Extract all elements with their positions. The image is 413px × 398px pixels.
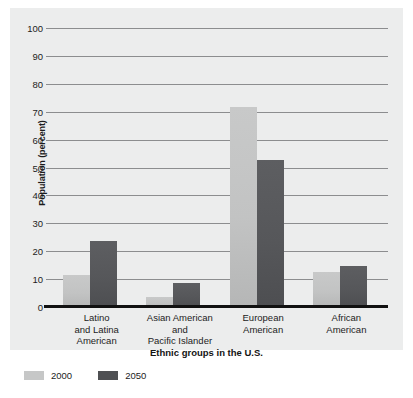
legend-swatch-2000-icon: [24, 371, 44, 380]
legend-item-2050: 2050: [98, 370, 146, 381]
x-axis-line: [44, 305, 388, 308]
y-tick-10: [46, 279, 55, 280]
y-tick-label-100: 100: [3, 23, 43, 34]
y-tick-30: [46, 223, 55, 224]
y-tick-label-0: 0: [3, 302, 43, 313]
y-tick-label-80: 80: [3, 79, 43, 90]
bar-2050-4: [340, 266, 367, 308]
y-tick-label-30: 30: [3, 218, 43, 229]
y-tick-100: [46, 28, 55, 29]
y-tick-60: [46, 140, 55, 141]
bar-2000-1: [63, 275, 90, 308]
y-tick-50: [46, 168, 55, 169]
bar-group-4: [305, 29, 388, 308]
plot-area: 0102030405060708090100: [55, 29, 388, 308]
legend-label-2000: 2000: [51, 370, 72, 381]
y-tick-label-10: 10: [3, 274, 43, 285]
x-category-label-line: Pacific Islander: [128, 335, 232, 347]
y-tick-90: [46, 56, 55, 57]
legend-label-2050: 2050: [125, 370, 146, 381]
bar-2000-3: [230, 107, 257, 308]
chart-legend: 2000 2050: [24, 370, 146, 381]
y-tick-label-70: 70: [3, 107, 43, 118]
chart-figure: Population (percent) 0102030405060708090…: [0, 0, 413, 398]
chart-panel: Population (percent) 0102030405060708090…: [10, 8, 403, 350]
y-tick-label-90: 90: [3, 51, 43, 62]
bar-2000-4: [313, 272, 340, 308]
x-category-label-line: African: [294, 312, 398, 324]
y-tick-label-40: 40: [3, 190, 43, 201]
bar-2050-3: [257, 160, 284, 308]
x-axis-title: Ethnic groups in the U.S.: [0, 347, 413, 358]
bar-group-3: [222, 29, 305, 308]
legend-swatch-2050-icon: [98, 371, 118, 380]
y-tick-40: [46, 195, 55, 196]
x-category-label-4: AfricanAmerican: [294, 312, 398, 335]
y-tick-label-20: 20: [3, 246, 43, 257]
bar-group-2: [138, 29, 221, 308]
legend-item-2000: 2000: [24, 370, 72, 381]
y-tick-80: [46, 84, 55, 85]
y-tick-20: [46, 251, 55, 252]
y-tick-70: [46, 112, 55, 113]
y-tick-label-50: 50: [3, 163, 43, 174]
y-tick-label-60: 60: [3, 135, 43, 146]
bar-group-1: [55, 29, 138, 308]
bar-2050-1: [90, 241, 117, 308]
x-category-label-line: American: [294, 324, 398, 336]
